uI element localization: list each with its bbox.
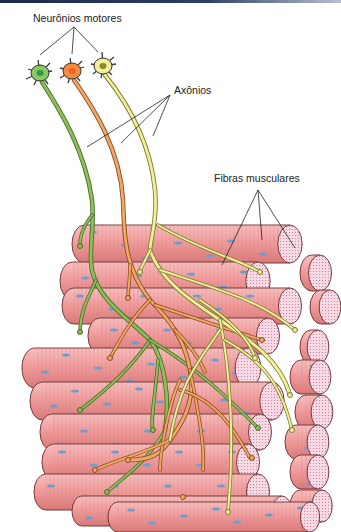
fiber-nucleus: [81, 276, 89, 279]
fiber-nucleus: [212, 507, 220, 510]
neuron-orange-cell-body: [60, 58, 84, 83]
fiber-nucleus: [187, 272, 195, 275]
fiber-nucleus: [76, 294, 84, 297]
fiber-striations: [84, 226, 290, 262]
fiber-cross-section: [309, 360, 331, 394]
fiber-nucleus: [131, 341, 139, 344]
fiber-nucleus: [174, 241, 182, 244]
fiber-nucleus: [164, 484, 172, 487]
fiber-nucleus: [163, 328, 171, 331]
fiber-nucleus: [148, 521, 156, 524]
fiber-nucleus: [246, 294, 254, 297]
fiber-nucleus: [41, 370, 49, 373]
fiber-nucleus: [62, 353, 70, 356]
fiber-nucleus: [180, 514, 188, 517]
fiber-nucleus: [90, 463, 98, 466]
fiber-nucleus: [143, 463, 151, 466]
fiber-nucleus: [127, 508, 135, 511]
motor-unit-illustration: [0, 0, 341, 532]
fiber-nucleus: [50, 404, 58, 407]
fiber-nucleus: [103, 402, 111, 405]
fiber-nucleus: [233, 520, 241, 523]
fiber-cross-section: [311, 395, 333, 429]
fiber-cross-section: [307, 330, 329, 364]
fiber-cross-section: [300, 502, 319, 532]
fiber-nucleus: [211, 358, 219, 361]
fiber-nucleus: [206, 254, 214, 257]
fiber-striations: [118, 503, 310, 531]
neuron-yellow-cell-body: [91, 52, 116, 78]
fiber-nucleus: [259, 252, 267, 255]
fiber-nucleus: [175, 450, 183, 453]
fiber-nucleus: [58, 450, 66, 453]
muscle-fibers-group: [22, 225, 341, 532]
fiber-cross-section: [307, 425, 329, 459]
fiber-nucleus: [156, 400, 164, 403]
fiber-nucleus: [193, 294, 201, 297]
fiber-cross-section: [319, 290, 341, 324]
fiber-nucleus: [47, 484, 55, 487]
fiber-cross-section: [308, 255, 331, 291]
label-muscle-fibers: Fibras musculares: [214, 172, 300, 184]
fiber-nucleus: [265, 513, 273, 516]
fiber-nucleus: [94, 366, 102, 369]
fiber-nucleus: [71, 389, 79, 392]
fiber-nucleus: [217, 484, 225, 487]
fiber-nucleus: [111, 450, 119, 453]
fiber-nucleus: [85, 516, 93, 519]
neuron-green-cell-body: [26, 60, 52, 85]
fiber-nucleus: [110, 328, 118, 331]
fiber-nucleus: [135, 387, 143, 390]
motor-neurons-group: [26, 52, 116, 85]
label-axons: Axônios: [174, 84, 211, 96]
fiber-cross-section: [278, 225, 302, 263]
label-motor-neurons: Neurônios motores: [33, 12, 122, 24]
fiber-nucleus: [147, 362, 155, 365]
fiber-nucleus: [179, 375, 187, 378]
fiber-cross-section: [307, 455, 329, 489]
fiber-nucleus: [80, 429, 88, 432]
